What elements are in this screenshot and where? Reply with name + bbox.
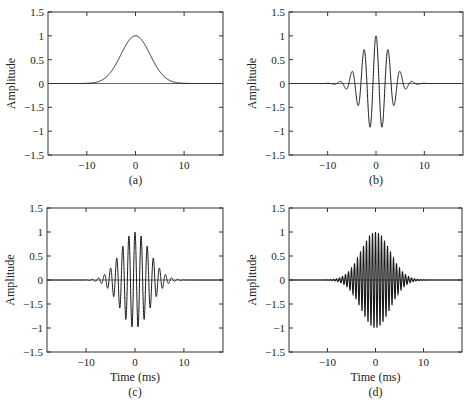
panel-label: (c) xyxy=(128,385,141,399)
y-tick-label: 1.5 xyxy=(29,202,43,214)
y-tick-label: −1.5 xyxy=(265,101,285,113)
y-axis-label: Amplitude xyxy=(245,58,259,109)
y-tick-label: 0.5 xyxy=(271,250,285,262)
y-tick-label: −1.5 xyxy=(24,149,44,161)
y-tick-label: 1.5 xyxy=(271,6,285,18)
y-tick-label: 1 xyxy=(280,30,286,42)
y-tick-label: −1.5 xyxy=(24,101,44,113)
x-tick-label: 0 xyxy=(373,356,379,368)
x-tick-label: 0 xyxy=(132,356,138,368)
y-tick-label: −1.5 xyxy=(265,346,285,358)
y-tick-label: 0 xyxy=(280,78,286,90)
x-tick-label: −10 xyxy=(319,159,337,171)
x-tick-label: 0 xyxy=(373,159,379,171)
panel-label: (a) xyxy=(129,173,142,187)
y-tick-label: −1.5 xyxy=(265,149,285,161)
y-axis-label: Amplitude xyxy=(3,254,17,305)
panel-b: −100101.510.50−1.5−1−1.5 (b) Amplitude xyxy=(245,6,463,187)
y-tick-label: −1.5 xyxy=(23,346,43,358)
y-axis-label: Amplitude xyxy=(4,58,18,109)
y-tick-label: 0 xyxy=(280,274,286,286)
waveform-line xyxy=(47,232,223,327)
x-tick-label: 10 xyxy=(419,159,431,171)
x-axis-label: Time (ms) xyxy=(351,370,401,384)
y-tick-label: 1.5 xyxy=(30,6,44,18)
waveform-line xyxy=(48,36,223,84)
y-axis-label: Amplitude xyxy=(245,254,259,305)
panel-a: −100101.510.50−1.5−1−1.5 (a) Amplitude xyxy=(4,6,223,187)
x-tick-label: −10 xyxy=(78,356,96,368)
y-tick-label: −1.5 xyxy=(23,298,43,310)
x-tick-label: −10 xyxy=(319,356,337,368)
x-tick-label: 10 xyxy=(418,356,430,368)
y-tick-label: 0.5 xyxy=(29,250,43,262)
y-tick-label: 1 xyxy=(280,226,286,238)
y-tick-label: 0 xyxy=(39,78,45,90)
x-tick-label: 10 xyxy=(178,356,190,368)
x-tick-label: 10 xyxy=(179,159,191,171)
y-tick-label: 1 xyxy=(38,226,44,238)
x-tick-label: 0 xyxy=(133,159,139,171)
y-tick-label: −1 xyxy=(31,322,43,334)
panel-label: (d) xyxy=(369,385,383,399)
panel-label: (b) xyxy=(369,173,383,187)
panel-d: −100101.510.50−1.5−1−1.5 (d) Amplitude T… xyxy=(245,202,462,399)
y-tick-label: 0.5 xyxy=(271,54,285,66)
waveform-line xyxy=(289,36,463,127)
figure: −100101.510.50−1.5−1−1.5 (a) Amplitude −… xyxy=(0,0,469,402)
y-tick-label: 0 xyxy=(38,274,44,286)
x-tick-label: −10 xyxy=(78,159,96,171)
y-tick-label: −1 xyxy=(273,322,285,334)
y-tick-label: 1 xyxy=(39,30,45,42)
y-tick-label: −1 xyxy=(32,125,44,137)
x-axis-label: Time (ms) xyxy=(110,370,160,384)
y-tick-label: 1.5 xyxy=(271,202,285,214)
y-tick-label: 0.5 xyxy=(30,54,44,66)
y-tick-label: −1.5 xyxy=(265,298,285,310)
y-tick-label: −1 xyxy=(273,125,285,137)
panel-c: −100101.510.50−1.5−1−1.5 (c) Amplitude T… xyxy=(3,202,223,399)
